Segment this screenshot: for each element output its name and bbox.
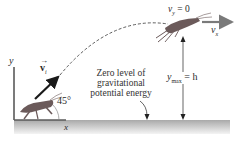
initial-velocity-arrow xyxy=(35,77,58,99)
initial-velocity-label: →vi xyxy=(40,63,47,75)
grasshopper-launch-icon xyxy=(20,93,62,119)
ymax-label: ymax = h xyxy=(166,72,198,84)
vy-zero-label: vy = 0 xyxy=(168,5,190,16)
projectile-diagram: y x →vi 45° vy = 0 vx Zero level of grav… xyxy=(0,0,245,143)
angle-arc xyxy=(52,104,59,120)
y-axis-label: y xyxy=(9,56,13,66)
angle-label: 45° xyxy=(57,96,71,106)
grasshopper-apex-icon xyxy=(156,13,212,42)
ground xyxy=(14,120,230,134)
vx-label: vx xyxy=(211,25,218,37)
zero-level-pointer xyxy=(140,101,150,120)
zero-level-line-1: Zero level of xyxy=(80,68,162,78)
zero-level-line-2: gravitational xyxy=(80,78,162,88)
zero-level-line-3: potential energy xyxy=(80,88,162,98)
vector-arrow-icon: → xyxy=(40,57,48,65)
x-axis-label: x xyxy=(64,123,68,132)
zero-level-annotation: Zero level of gravitational potential en… xyxy=(80,68,162,98)
